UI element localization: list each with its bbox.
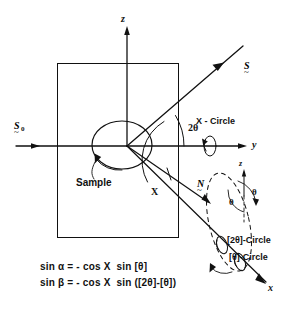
theta-right-angle-label: θ <box>252 188 257 197</box>
incident-beam-subscript: 0 <box>21 126 25 133</box>
theta-right-arrowhead <box>253 198 260 206</box>
normal-line <box>127 146 208 202</box>
y-axis-label: y <box>252 140 256 150</box>
y-axis-arrowhead <box>238 143 247 149</box>
diffracted-beam-tilde: ~ <box>244 67 250 77</box>
incident-beam-arrowhead <box>31 143 40 149</box>
incident-beam-label: S ~ <box>14 120 20 137</box>
theta-left-angle-label: θ <box>229 198 234 207</box>
equation-beta: sin β = - cos X sin ([2θ]-[θ]) <box>40 278 176 288</box>
two-theta-arc <box>176 116 185 147</box>
x-axis-label: x <box>268 283 273 293</box>
z-axis-arrowhead <box>124 26 130 35</box>
equation-alpha: sin α = - cos X sin [θ] <box>40 262 147 272</box>
diffracted-beam-line <box>127 46 243 146</box>
sample-plate-rectangle <box>58 64 179 238</box>
diffracted-beam-label: S ~ <box>244 60 250 77</box>
diffractometer-geometry-figure: z y x z S ~ 0 S ~ N ~ 2θ X θ θ Sample X … <box>0 0 289 314</box>
normal-vector-label: N ~ <box>197 178 204 195</box>
chi-circle-label: X - Circle <box>196 117 235 126</box>
z-axis-label: z <box>121 14 125 24</box>
incident-beam-tilde: ~ <box>14 127 20 137</box>
chi-angle-label: X <box>151 187 158 197</box>
sample-label: Sample <box>76 178 112 188</box>
secondary-z-axis-arrowhead <box>242 169 246 177</box>
two-theta-circle-label: [2θ]-Circle <box>227 236 271 245</box>
x-axis-arrowhead <box>255 273 266 284</box>
diffracted-beam-arrowhead <box>213 63 225 72</box>
two-theta-rotation-arrow <box>212 268 232 274</box>
theta-circle-label: [θ]-Circle <box>229 253 268 262</box>
secondary-z-axis-label: z <box>239 160 242 168</box>
